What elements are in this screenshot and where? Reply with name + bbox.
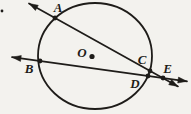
- point-dot-C: [148, 69, 153, 74]
- point-dot-D: [146, 74, 151, 79]
- center-label-O: O: [77, 45, 87, 60]
- arrowhead-right-icon: [178, 77, 187, 83]
- arrowhead-upper-left-icon: [29, 4, 38, 11]
- geometry-figure: A B C D E O: [0, 0, 191, 114]
- point-dot-E: [161, 76, 166, 81]
- point-label-C: C: [138, 52, 147, 67]
- center-dot-O: [89, 54, 94, 59]
- point-label-E: E: [162, 61, 172, 76]
- point-label-D: D: [129, 76, 140, 91]
- point-label-A: A: [53, 0, 63, 15]
- arrowhead-left-icon: [12, 56, 21, 62]
- stray-scan-dot: [1, 10, 4, 13]
- geometry-diagram-svg: A B C D E O: [0, 0, 191, 114]
- point-dot-A: [53, 16, 58, 21]
- point-label-B: B: [24, 61, 34, 76]
- secant-line-ACE: [29, 4, 178, 87]
- point-dot-B: [38, 59, 43, 64]
